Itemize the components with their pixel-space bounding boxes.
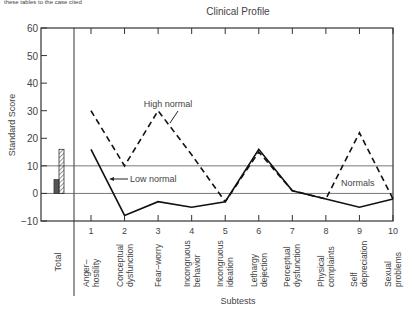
- x-tick-number: 2: [122, 226, 127, 236]
- subtest-label: depreciation: [359, 240, 369, 287]
- annotation-low-normal: Low normal: [130, 174, 177, 184]
- subtest-label: dejection: [259, 253, 269, 287]
- subtest-label: complaints: [326, 246, 336, 287]
- subtest-label: Physical: [316, 255, 326, 287]
- y-tick-label: 20: [27, 133, 39, 144]
- plot-border: [41, 28, 393, 221]
- subtest-label: problems: [393, 252, 403, 287]
- subtest-label: Self: [349, 272, 359, 287]
- total-bar: [54, 180, 59, 194]
- x-tick-number: 10: [388, 226, 398, 236]
- arrow-high-normal: [170, 111, 178, 123]
- x-tick-number: 6: [256, 226, 261, 236]
- annotation-high-normal: High normal: [144, 99, 193, 109]
- arrowhead-low-normal: [109, 177, 114, 181]
- subtest-label: dysfunction: [125, 244, 135, 287]
- subtest-label: dysfunction: [292, 244, 302, 287]
- x-tick-number: 3: [156, 226, 161, 236]
- x-tick-number: 8: [323, 226, 328, 236]
- x-tick-number: 7: [290, 226, 295, 236]
- y-tick-label: −10: [21, 216, 38, 227]
- subtest-label: hostility: [91, 258, 101, 287]
- subtest-label: behavior: [192, 254, 202, 287]
- x-tick-number: 5: [223, 226, 228, 236]
- high-normal-line: [91, 111, 393, 202]
- subtest-label: Incongruous: [215, 240, 225, 287]
- subtest-label: Conceptual: [115, 244, 125, 287]
- y-tick-label: 30: [27, 106, 39, 117]
- y-tick-label: 60: [27, 23, 39, 34]
- subtest-label: Anger–: [81, 259, 91, 287]
- chart-title: Clinical Profile: [206, 6, 270, 17]
- total-bar: [59, 149, 64, 193]
- x-tick-number: 1: [88, 226, 93, 236]
- subtest-label: ideation: [225, 257, 235, 287]
- subtest-label: Perceptual: [282, 246, 292, 287]
- header-cutoff-text: these tables to the case cited: [4, 0, 82, 5]
- y-axis-label: Standard Score: [7, 94, 17, 157]
- y-tick-label: 50: [27, 51, 39, 62]
- y-axis: 6050403020100−10: [21, 23, 47, 227]
- x-tick-number: 4: [189, 226, 194, 236]
- y-tick-label: 10: [27, 161, 39, 172]
- subtest-label: Lethargy: [249, 253, 259, 287]
- subtest-label: Incongruous: [182, 240, 192, 287]
- y-tick-label: 40: [27, 78, 39, 89]
- series-lines: [91, 111, 393, 216]
- y-tick-label: 0: [32, 188, 38, 199]
- annotation-normals: Normals: [341, 178, 375, 188]
- x-axis-label: Subtests: [220, 296, 256, 306]
- total-bars: Total: [53, 149, 64, 271]
- clinical-profile-chart: these tables to the case cited Clinical …: [0, 0, 413, 314]
- subtest-label: Sexual: [383, 261, 393, 287]
- x-tick-number: 9: [357, 226, 362, 236]
- total-label: Total: [53, 252, 63, 271]
- subtest-label: Fear–worry: [153, 243, 163, 287]
